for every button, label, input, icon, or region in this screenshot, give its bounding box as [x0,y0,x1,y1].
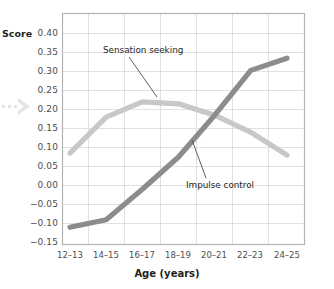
x-tick-label: 18–19 [165,250,191,260]
x-tick-label: 24–25 [274,250,300,260]
x-tick-label: 14–15 [93,250,119,260]
annotation-impulse-control: Impulse control [186,180,254,190]
chart-figure: Score 0.40 0.35 0.30 0.25 0.20 0.15 0.10… [0,0,334,289]
annotation-sensation-seeking: Sensation seeking [103,45,183,55]
x-tick-label: 20–21 [201,250,227,260]
x-axis-title: Age (years) [0,268,334,279]
x-tick-label: 12–13 [57,250,83,260]
x-tick-label: 22–23 [237,250,263,260]
plot-area [0,0,334,289]
x-tick-label: 16–17 [129,250,155,260]
x-axis-tick-labels: 12–13 14–15 16–17 18–19 20–21 22–23 24–2… [0,250,334,264]
